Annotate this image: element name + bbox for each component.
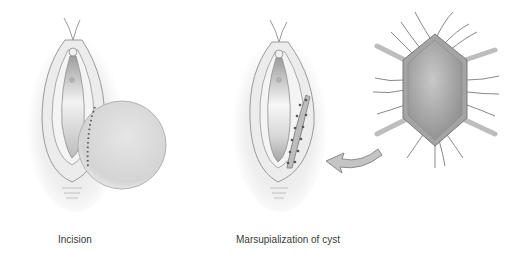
marsupialization-panel bbox=[230, 0, 340, 220]
marsupialization-illustration bbox=[230, 0, 340, 220]
clitoris bbox=[69, 48, 77, 56]
caption-incision: Incision bbox=[58, 234, 92, 245]
sutured-cyst-detail bbox=[365, 10, 505, 170]
bartholin-cyst bbox=[78, 101, 166, 189]
caption-marsupialization: Marsupialization of cyst bbox=[236, 234, 340, 245]
incision-panel bbox=[20, 0, 170, 220]
incision-illustration bbox=[20, 0, 170, 220]
